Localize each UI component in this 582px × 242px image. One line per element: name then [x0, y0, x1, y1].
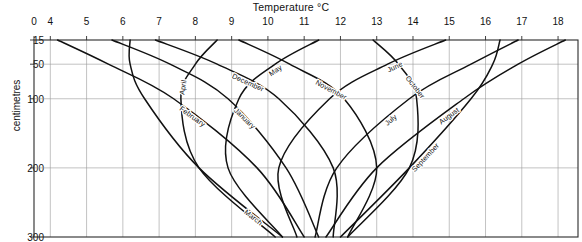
curve-label-june: JuneJune: [386, 59, 404, 74]
curve-label-march: MarchMarch: [243, 207, 265, 227]
chart-root: Temperature °C centimetres 0456789101112…: [0, 0, 582, 242]
curve-label-may: MayMay: [267, 63, 284, 78]
curve-label-text: March: [243, 207, 265, 227]
curve-label-april: AprilApril: [177, 79, 188, 95]
monthly-temperature-curves: [58, 40, 566, 237]
curve-label-text: September: [410, 141, 442, 174]
curve-label-text: January: [232, 106, 257, 131]
curve-label-text: July: [383, 112, 399, 128]
temperature-curve: [239, 40, 377, 237]
curve-label-text: April: [177, 79, 188, 95]
curve-label-january: JanuaryJanuary: [232, 106, 257, 131]
curve-label-text: June: [386, 59, 404, 74]
curve-label-july: JulyJuly: [383, 112, 399, 128]
curve-label-text: May: [267, 63, 284, 78]
temperature-curve: [348, 40, 418, 237]
curve-label-september: SeptemberSeptember: [410, 141, 442, 174]
curve-label-text: October: [404, 74, 427, 101]
temperature-curve: [155, 40, 337, 237]
curve-label-october: OctoberOctober: [404, 74, 427, 101]
chart-plot-area: JanuaryJanuaryFebruaryFebruaryMarchMarch…: [0, 0, 582, 242]
temperature-curve: [112, 40, 319, 237]
temperature-curve: [129, 40, 282, 237]
curve-label-text: November: [314, 78, 349, 102]
curve-label-november: NovemberNovember: [314, 78, 349, 102]
